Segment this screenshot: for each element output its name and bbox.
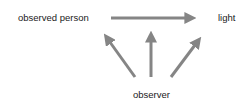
node-observed-person: observed person [18,13,89,23]
node-observer: observer [133,90,170,100]
node-light: light [218,13,235,23]
arrow-observer-to-light [171,41,198,77]
diagram-canvas: observed person light observer [0,0,247,108]
arrow-observer-to-observed-person [107,38,135,77]
